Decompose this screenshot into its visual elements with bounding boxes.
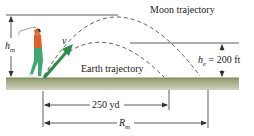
golfer-pants <box>30 48 43 76</box>
moon-trajectory-label: Moon trajectory <box>150 4 215 15</box>
velocity-label: v <box>62 35 67 46</box>
golfer-figure <box>18 27 43 78</box>
golf-trajectory-diagram: hm he = 200 ft Moon trajectory Earth tra… <box>0 0 254 136</box>
velocity-arrow <box>44 44 73 78</box>
ground <box>6 78 239 90</box>
golfer-shirt <box>34 35 42 48</box>
earth-trajectory-label: Earth trajectory <box>81 63 143 74</box>
golf-club <box>18 27 34 35</box>
moon-range-label: Rm <box>118 117 130 131</box>
h-e-label: he = 200 ft <box>198 54 241 68</box>
earth-range-label: 250 yd <box>92 99 120 110</box>
